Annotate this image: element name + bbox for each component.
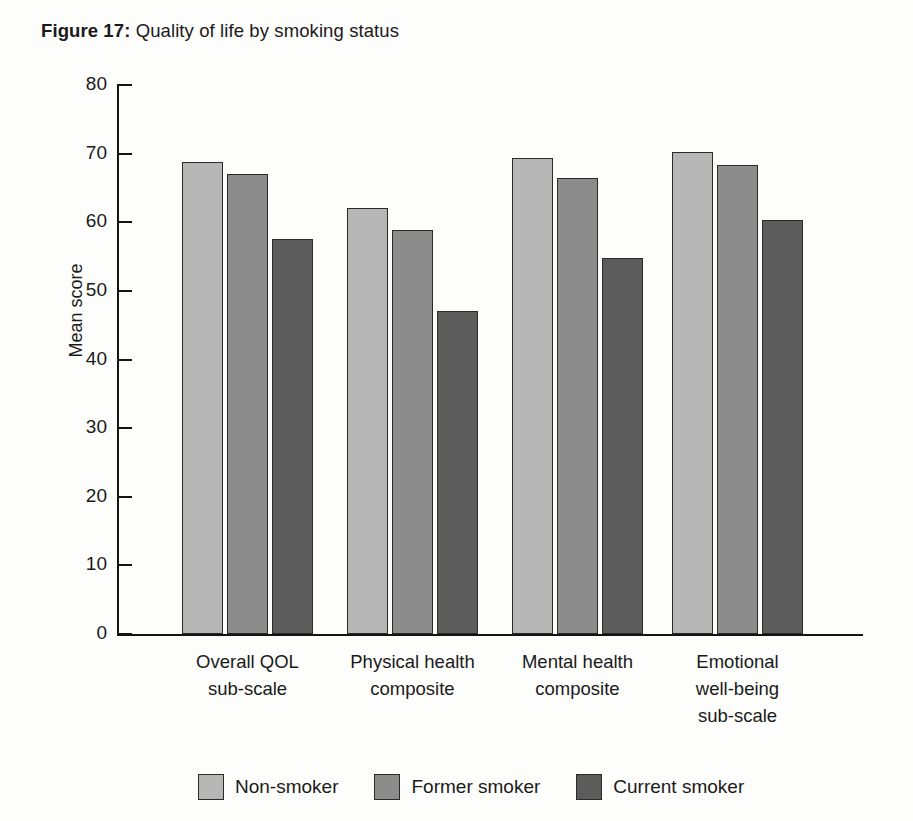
- y-axis-tick-label: 80: [45, 74, 107, 93]
- y-axis-tick: [117, 153, 132, 155]
- y-axis-tick-label: 20: [45, 486, 107, 505]
- bar: [272, 239, 313, 634]
- legend-label: Current smoker: [613, 776, 744, 798]
- x-axis-group-label-line: sub-scale: [628, 702, 848, 729]
- y-axis-tick: [117, 564, 132, 566]
- legend-swatch-icon: [198, 774, 224, 800]
- bar: [347, 208, 388, 634]
- x-axis-line: [117, 634, 863, 636]
- y-axis-tick-label-text: 40: [47, 349, 107, 368]
- legend-label: Non-smoker: [235, 776, 338, 798]
- y-axis-tick-label: 30: [45, 417, 107, 436]
- legend-label: Former smoker: [411, 776, 540, 798]
- bar: [392, 230, 433, 634]
- legend-swatch-icon: [374, 774, 400, 800]
- bar: [512, 158, 553, 634]
- y-axis-tick-label-text: 20: [47, 486, 107, 505]
- y-axis-tick-label-text: 10: [47, 554, 107, 573]
- y-axis-tick: [117, 84, 132, 86]
- y-axis-tick-label-text: 0: [47, 623, 107, 642]
- bar: [602, 258, 643, 634]
- y-axis-tick-label-text: 30: [47, 417, 107, 436]
- y-axis-tick: [117, 290, 132, 292]
- legend-item[interactable]: Non-smoker: [198, 774, 338, 800]
- bar: [182, 162, 223, 634]
- y-axis-tick-label-text: 80: [47, 74, 107, 93]
- bar: [717, 165, 758, 634]
- bar: [227, 174, 268, 634]
- y-axis-tick-label: 10: [45, 554, 107, 573]
- bar-chart: Mean score 01020304050607080 Overall QOL…: [0, 0, 913, 821]
- y-axis-tick: [117, 633, 132, 635]
- x-axis-group-label-line: Emotional: [628, 648, 848, 675]
- y-axis-tick-label: 40: [45, 349, 107, 368]
- y-axis-tick-label-text: 50: [47, 280, 107, 299]
- y-axis-tick-label-text: 60: [47, 211, 107, 230]
- bar: [557, 178, 598, 634]
- legend-item[interactable]: Current smoker: [576, 774, 744, 800]
- y-axis-tick-label: 0: [45, 623, 107, 642]
- y-axis-tick-label: 60: [45, 211, 107, 230]
- legend-swatch-icon: [576, 774, 602, 800]
- y-axis-tick-label: 50: [45, 280, 107, 299]
- bar: [762, 220, 803, 634]
- chart-legend: Non-smokerFormer smokerCurrent smoker: [198, 774, 780, 800]
- x-axis-group-label: Emotionalwell-beingsub-scale: [628, 648, 848, 729]
- x-axis-group-label-line: well-being: [628, 675, 848, 702]
- bar: [672, 152, 713, 634]
- legend-item[interactable]: Former smoker: [374, 774, 540, 800]
- y-axis-tick: [117, 496, 132, 498]
- y-axis-tick-label: 70: [45, 143, 107, 162]
- y-axis-tick: [117, 427, 132, 429]
- y-axis-tick-label-text: 70: [47, 143, 107, 162]
- y-axis-tick: [117, 359, 132, 361]
- y-axis-tick: [117, 221, 132, 223]
- bar: [437, 311, 478, 634]
